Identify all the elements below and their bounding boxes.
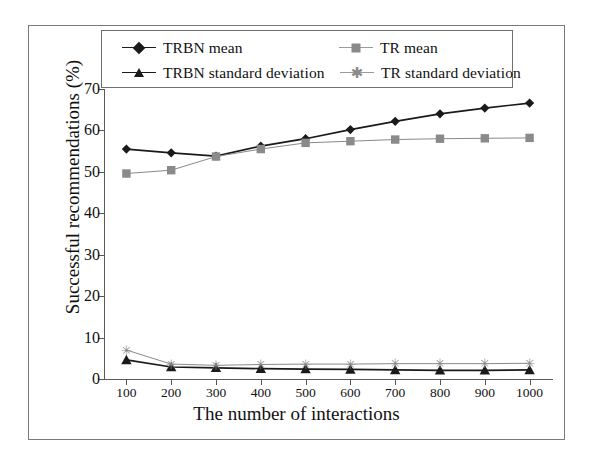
star-marker-icon: ✳: [300, 357, 311, 372]
square-marker-icon: [481, 134, 489, 142]
square-marker-icon: [436, 135, 444, 143]
legend-entry-trbn-mean: TRBN mean: [102, 35, 323, 60]
diamond-marker-icon: [167, 148, 176, 157]
square-marker-icon: [122, 169, 130, 177]
star-marker-icon: ✳: [390, 356, 401, 371]
square-marker-icon: [212, 152, 220, 160]
square-marker-icon: [167, 166, 175, 174]
y-tick-label: 50: [60, 163, 100, 181]
square-marker-icon: [391, 135, 399, 143]
x-tick-label: 800: [430, 385, 450, 401]
triangle-marker-icon: [122, 66, 156, 80]
series-trbn-mean: [122, 98, 534, 160]
legend-label-tr-mean: TR mean: [380, 39, 438, 57]
star-marker-icon: ✳: [166, 357, 177, 372]
diamond-marker-icon: [122, 144, 131, 153]
legend-row-2: TRBN standard deviation ✱ TR standard de…: [102, 60, 512, 85]
series-tr-mean: [122, 134, 534, 178]
diamond-marker-icon: [435, 109, 444, 118]
legend-entry-tr-mean: TR mean: [323, 35, 512, 60]
star-marker-icon: ✳: [479, 356, 490, 371]
legend-entry-tr-std: ✱ TR standard deviation: [324, 60, 514, 85]
legend-label-trbn-std: TRBN standard deviation: [163, 64, 325, 82]
x-tick-label: 300: [206, 385, 226, 401]
x-tick-label: 700: [385, 385, 405, 401]
star-marker-icon: ✳: [345, 357, 356, 372]
series-line: [126, 350, 529, 365]
square-marker-icon: [346, 137, 354, 145]
x-tick-label: 1000: [516, 385, 543, 401]
legend-row-1: TRBN mean TR mean: [102, 35, 512, 60]
series-line: [126, 360, 529, 370]
y-tick-label: 70: [60, 80, 100, 98]
y-tick-label: 20: [60, 287, 100, 305]
star-marker-icon: ✳: [435, 356, 446, 371]
x-tick-label: 600: [340, 385, 360, 401]
diamond-marker-icon: [525, 98, 534, 107]
y-tick-label: 10: [60, 329, 100, 347]
y-tick-label: 0: [60, 370, 100, 388]
x-tick-label: 500: [295, 385, 315, 401]
plot-area: 010203040506070 100200300400500600700800…: [104, 89, 552, 379]
star-marker-icon: ✳: [211, 358, 222, 373]
diamond-marker-icon: [122, 41, 156, 55]
legend-label-tr-std: TR standard deviation: [381, 64, 521, 82]
figure-frame: TRBN mean TR mean TRBN standard deviatio…: [28, 25, 565, 440]
chart-legend: TRBN mean TR mean TRBN standard deviatio…: [101, 30, 513, 88]
legend-label-trbn-mean: TRBN mean: [163, 39, 243, 57]
x-tick-label: 400: [251, 385, 271, 401]
diamond-marker-icon: [480, 103, 489, 112]
square-marker-icon: [339, 41, 373, 55]
series-line: [126, 103, 529, 156]
square-marker-icon: [257, 145, 265, 153]
square-marker-icon: [301, 139, 309, 147]
diamond-marker-icon: [346, 125, 355, 134]
diamond-marker-icon: [391, 117, 400, 126]
star-marker-icon: ✱: [340, 66, 374, 80]
y-tick-label: 30: [60, 246, 100, 264]
y-tick-label: 40: [60, 204, 100, 222]
x-axis-title: The number of interactions: [29, 403, 564, 425]
star-marker-icon: ✳: [524, 356, 535, 371]
x-tick-label: 200: [161, 385, 181, 401]
x-tick-label: 900: [475, 385, 495, 401]
square-marker-icon: [525, 134, 533, 142]
legend-entry-trbn-std: TRBN standard deviation: [102, 60, 324, 85]
series-tr-standard-deviation: ✳✳✳✳✳✳✳✳✳✳: [121, 343, 535, 373]
star-marker-icon: ✳: [121, 343, 132, 358]
y-tick-label: 60: [60, 121, 100, 139]
star-marker-icon: ✳: [255, 357, 266, 372]
x-tick-label: 100: [116, 385, 136, 401]
series-line: [126, 138, 529, 174]
series-lines: ✳✳✳✳✳✳✳✳✳✳: [104, 89, 552, 380]
